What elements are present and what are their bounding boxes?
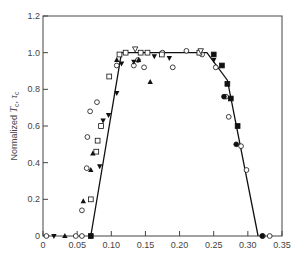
open-circle-marker — [244, 168, 249, 173]
x-tick-label: 0.05 — [68, 240, 86, 250]
x-tick-label: 0.10 — [103, 240, 121, 250]
filled-square-marker — [211, 52, 216, 57]
open-circle-marker — [80, 234, 85, 239]
open-circle-marker — [239, 144, 244, 149]
y-tick-label: 1.0 — [27, 48, 40, 58]
open-circle-marker — [84, 166, 89, 171]
open-square-marker — [159, 52, 164, 57]
x-tick-label: 0.20 — [171, 240, 189, 250]
filled-triangle-up-marker — [114, 57, 119, 62]
filled-square-marker — [220, 63, 225, 68]
filled-triangle-up-marker — [81, 198, 86, 203]
filled-triangle-down-marker — [152, 54, 157, 59]
open-circle-marker — [213, 65, 218, 70]
open-circle-marker — [267, 234, 272, 239]
open-square-marker — [145, 50, 150, 55]
y-tick-label: 0.2 — [27, 194, 40, 204]
open-triangle-down-marker — [132, 47, 137, 52]
open-square-marker — [117, 52, 122, 57]
x-tick-label: 0.30 — [239, 240, 257, 250]
y-axis-label: Normalized Tc, τc — [8, 91, 20, 161]
open-square-marker — [107, 74, 112, 79]
filled-circle-marker — [260, 234, 265, 239]
open-circle-marker — [44, 234, 49, 239]
open-square-marker — [95, 138, 100, 143]
filled-triangle-down-marker — [211, 58, 216, 63]
y-tick-label: 1.2 — [27, 11, 40, 21]
open-circle-marker — [226, 114, 231, 119]
y-tick-label: 0.8 — [27, 84, 40, 94]
open-circle-marker — [170, 65, 175, 70]
x-tick-label: 0.15 — [137, 240, 155, 250]
open-circle-marker — [95, 100, 100, 105]
open-square-marker — [99, 124, 104, 129]
chart: 00.050.100.150.200.250.300.35 00.20.40.6… — [0, 0, 306, 259]
filled-circle-marker — [222, 94, 227, 99]
axes — [43, 16, 282, 236]
filled-square-marker — [228, 96, 233, 101]
y-tick-label: 0.6 — [27, 121, 40, 131]
filled-square-marker — [225, 81, 230, 86]
x-tick-label: 0 — [40, 240, 45, 250]
open-circle-marker — [142, 65, 147, 70]
x-axis-ticks: 00.050.100.150.200.250.300.35 — [40, 231, 290, 250]
filled-triangle-down-marker — [167, 56, 172, 61]
filled-triangle-down-marker — [100, 118, 105, 123]
filled-triangle-up-marker — [148, 79, 153, 84]
open-circle-marker — [184, 48, 189, 53]
open-circle-marker — [85, 135, 90, 140]
open-circle-marker — [80, 208, 85, 213]
x-tick-label: 0.25 — [205, 240, 223, 250]
open-square-marker — [123, 50, 128, 55]
y-tick-label: 0 — [35, 231, 40, 241]
open-square-marker — [94, 149, 99, 154]
open-circle-marker — [88, 109, 93, 114]
x-tick-label: 0.35 — [273, 240, 291, 250]
open-square-marker — [138, 50, 143, 55]
trapezoid-fit-line — [91, 53, 258, 236]
data-markers — [44, 47, 272, 239]
filled-square-marker — [235, 124, 240, 129]
filled-circle-marker — [234, 142, 239, 147]
plot-frame — [43, 16, 282, 236]
fit-line — [91, 53, 258, 236]
open-circle-marker — [114, 63, 119, 68]
y-tick-label: 0.4 — [27, 158, 40, 168]
y-axis-ticks: 00.20.40.60.81.01.2 — [27, 11, 48, 241]
open-circle-marker — [73, 234, 78, 239]
open-square-marker — [88, 197, 93, 202]
